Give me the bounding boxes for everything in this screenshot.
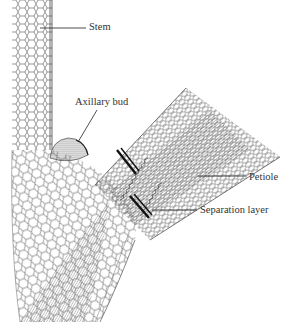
- stem-tissue: [12, 0, 52, 150]
- axillary-bud-leader: [78, 110, 97, 142]
- abscission-diagram: [0, 0, 288, 322]
- petiole-label: Petiole: [249, 172, 278, 183]
- separation-layer-label: Separation layer: [200, 205, 269, 216]
- stem-label: Stem: [89, 22, 111, 33]
- axillary-bud-label: Axillary bud: [75, 97, 128, 108]
- axillary-bud: [50, 138, 88, 161]
